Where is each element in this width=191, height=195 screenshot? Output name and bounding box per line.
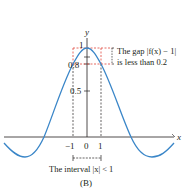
ytick-label-0.8: 0.8 — [68, 60, 80, 70]
y-axis-label: y — [84, 27, 89, 37]
ytick-label-0.5: 0.5 — [70, 86, 82, 96]
xtick-label-neg1: −1 — [65, 141, 75, 151]
ytick-label-1: 1 — [79, 40, 84, 50]
xtick-label-0: 0 — [84, 141, 89, 151]
chart-canvas: y x 1 0.8 0.5 −1 0 1 The gap |f(x) − 1| … — [0, 0, 191, 195]
panel-label: (B) — [80, 178, 92, 188]
gap-annotation-line1: The gap |f(x) − 1| — [117, 46, 176, 56]
x-axis-arrow — [172, 134, 175, 137]
gap-annotation-line2: is less than 0.2 — [117, 57, 167, 67]
xtick-label-1: 1 — [98, 141, 103, 151]
x-axis-label: x — [176, 132, 181, 142]
interval-annotation: The interval |x| < 1 — [49, 164, 113, 174]
